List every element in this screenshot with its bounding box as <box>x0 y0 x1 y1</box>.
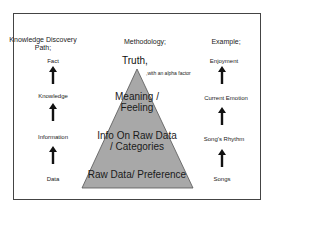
up-arrow-icon <box>218 107 226 125</box>
right-item-songs-rhythm: Song's Rhythm <box>204 136 245 143</box>
apex-label: Truth, <box>122 55 148 66</box>
apex-note: ,with an alpha factor <box>146 70 191 76</box>
pyramid-level-info: Info On Raw Data / Categories <box>97 131 177 152</box>
right-item-songs: Songs <box>213 176 230 183</box>
right-column-header: Example; <box>211 38 240 46</box>
up-arrow-icon <box>218 66 226 84</box>
pyramid-level-raw-data: Raw Data/ Preference <box>88 170 186 181</box>
right-item-enjoyment: Enjoyment <box>210 58 238 65</box>
right-item-current-emotion: Current Emotion <box>204 95 248 102</box>
pyramid-level-meaning: Meaning / Feeling <box>107 92 167 113</box>
up-arrow-icon <box>218 149 226 167</box>
